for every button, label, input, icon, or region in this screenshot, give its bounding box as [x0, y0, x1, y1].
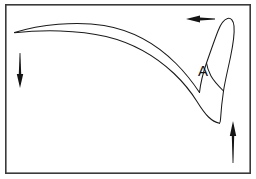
figure-border [6, 5, 250, 173]
region-label-a: A [198, 62, 208, 79]
figure-panel: A [0, 0, 256, 179]
figure-canvas: A [0, 0, 256, 179]
